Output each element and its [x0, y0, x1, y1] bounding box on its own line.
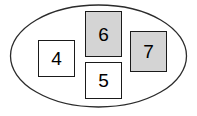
node-label-6: 6	[98, 24, 109, 43]
node-box-7[interactable]: 7	[130, 31, 167, 72]
node-label-5: 5	[98, 71, 109, 90]
node-label-4: 4	[51, 49, 62, 68]
node-box-6[interactable]: 6	[85, 11, 122, 57]
node-box-5[interactable]: 5	[85, 62, 122, 99]
node-label-7: 7	[143, 42, 154, 61]
node-box-4[interactable]: 4	[38, 40, 75, 77]
set-diagram: 4 6 7 5	[0, 0, 197, 116]
